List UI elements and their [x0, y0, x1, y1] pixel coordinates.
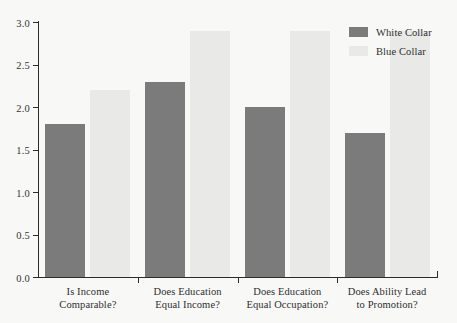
category-label-line: Equal Income?: [130, 298, 246, 311]
bar: [45, 124, 85, 277]
y-tick-label: 3.0: [16, 17, 30, 28]
y-tick-mark: [33, 277, 38, 278]
bar: [390, 31, 430, 278]
category-label: Does EducationEqual Occupation?: [230, 285, 346, 311]
y-tick-label: 2.5: [16, 60, 30, 71]
bar: [90, 90, 130, 277]
x-axis-end-cap: [437, 271, 438, 278]
y-tick-label: 2.0: [16, 102, 30, 113]
y-tick-label: 0.5: [16, 230, 30, 241]
y-tick: 0.0: [38, 277, 39, 278]
y-tick-label: 1.0: [16, 187, 30, 198]
bar: [190, 31, 230, 278]
category-label-line: Does Education: [230, 285, 346, 298]
category-label-line: Comparable?: [30, 298, 146, 311]
category-label-line: Is Income: [30, 285, 146, 298]
legend-label: Blue Collar: [376, 46, 426, 57]
x-group-tick: [138, 277, 139, 283]
category-label-line: to Promotion?: [329, 298, 445, 311]
bar-chart: 3.02.52.01.51.00.50.0 Is IncomeComparabl…: [0, 0, 457, 323]
category-label-line: Does Education: [130, 285, 246, 298]
chart-legend: White CollarBlue Collar: [349, 26, 432, 64]
bar: [145, 82, 185, 278]
y-tick-label: 1.5: [16, 145, 30, 156]
category-label: Is IncomeComparable?: [30, 285, 146, 311]
bar: [345, 133, 385, 278]
legend-item: Blue Collar: [349, 45, 432, 57]
legend-swatch-icon: [349, 27, 368, 37]
category-label-line: Equal Occupation?: [230, 298, 346, 311]
category-label-line: Does Ability Lead: [329, 285, 445, 298]
bar: [290, 31, 330, 278]
legend-label: White Collar: [376, 27, 432, 38]
bar: [245, 107, 285, 277]
x-group-tick: [238, 277, 239, 283]
category-label: Does Ability Leadto Promotion?: [329, 285, 445, 311]
y-tick-label: 0.0: [16, 272, 30, 283]
x-group-tick: [337, 277, 338, 283]
legend-item: White Collar: [349, 26, 432, 38]
category-label: Does EducationEqual Income?: [130, 285, 246, 311]
legend-swatch-icon: [349, 46, 368, 56]
